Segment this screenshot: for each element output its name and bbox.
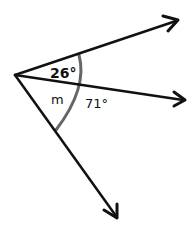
label-total-angle: 71° bbox=[85, 96, 108, 111]
label-top-angle: 26° bbox=[50, 65, 76, 81]
label-unknown-angle: m bbox=[51, 92, 64, 107]
angle-diagram: 26° m 71° bbox=[0, 0, 195, 229]
ray-top bbox=[15, 16, 178, 75]
arrowhead-icon bbox=[104, 204, 117, 218]
angle-diagram-svg: 26° m 71° bbox=[0, 0, 195, 229]
